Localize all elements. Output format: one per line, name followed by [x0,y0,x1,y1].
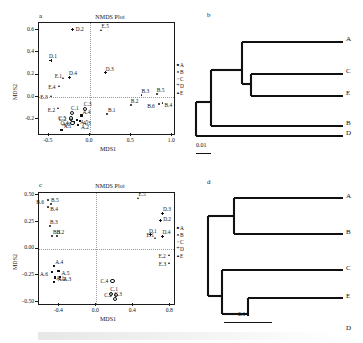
data-point-label-c-3: C.3 [114,291,122,297]
y-tickmark [35,248,38,249]
data-point-a-4 [80,114,82,116]
data-point-label-d-4: D.4 [162,229,170,235]
panel-d-leaf-c: C [346,264,351,272]
data-point-label-b-6: B.6 [36,199,44,205]
data-point-label-c-2: C.2 [104,292,112,298]
panel-a-xlabel: MDS1 [78,146,138,152]
y-tickmark [35,29,38,30]
panel-b-scale-label: 0.01 [196,142,207,148]
data-point-b-6 [47,199,49,201]
data-point-e-3 [168,262,170,264]
panel-letter-a: a [39,12,42,20]
legend-label-e: E [180,253,183,260]
data-point-e-2 [168,254,170,256]
x-tickmark [89,133,90,136]
data-point-label-b-6: B.6 [147,103,155,109]
panel-d-tree-svg [186,186,358,316]
legend-marker-filled-circle-icon: ● [176,231,180,238]
panel-letter-d: d [207,178,211,186]
y-tickmark [35,194,38,195]
y-tick-label: 0.25 [10,218,34,224]
data-point-label-d-2: D.2 [76,26,84,32]
panel-d-dendrogram[interactable] [186,186,358,316]
data-point-label-e-4: E.4 [48,84,55,90]
legend-marker-filled-square-icon: ■ [176,224,180,231]
data-point-label-e-1: E.1 [55,73,62,79]
data-point-e-1 [154,237,156,239]
panel-b-dendrogram[interactable] [186,18,358,150]
legend-item-e: ▲E [176,253,184,260]
data-point-label-e-1: E.1 [147,232,154,238]
data-point-b-1 [106,113,108,115]
data-point-label-b-1: B.1 [108,107,116,113]
data-point-label-d-2: D.2 [163,216,171,222]
data-point-label-b-4: B.4 [50,206,58,212]
data-point-label-a-5: A.5 [61,270,69,276]
panel-letter-c: c [39,181,42,189]
x-tick-label: 0.8 [155,307,183,313]
data-point-label-b-3: B.3 [50,219,58,225]
data-point-label-b-2: B.2 [131,98,139,104]
x-tickmark [95,303,96,306]
data-point-label-e-5: E.5 [102,23,109,29]
data-point-label-a-6: A.6 [40,271,48,277]
legend-marker-filled-circle-icon: ● [176,68,180,75]
data-point-a-5 [57,270,59,272]
data-point-e-3 [50,95,52,97]
data-point-label-b-5: B.5 [51,197,59,203]
data-point-label-d-4: D.4 [69,70,77,76]
panel-c-xlabel: MDS1 [78,316,138,322]
panel-d-scale-bar [224,322,272,323]
panel-a-plot-area[interactable]: A.1A.2A.3A.4A.5A.6B.1B.2B.3B.4B.5B.6C.1C… [38,22,175,135]
legend-top: ■A●B○C+D▲E [176,62,184,97]
data-point-label-d-1: D.1 [49,53,57,59]
panel-c-horizontal-gridline [39,249,174,250]
panel-c-plot-area[interactable]: A.1A.2A.3A.4A.5A.6B.1B.2B.3B.4B.5B.6C.1C… [38,192,175,305]
data-point-label-e-3: E.3 [40,94,47,100]
y-tick-label: -0.50 [10,298,34,304]
data-point-label-c-3: C.3 [84,101,92,107]
x-tick-label: 0.0 [81,307,109,313]
legend-marker-triangle-icon: ▲ [176,89,180,96]
x-tickmark [169,303,170,306]
x-tick-label: 0.5 [116,137,144,143]
data-point-label-c-4: C.4 [101,278,109,284]
figure-root: a NMDS Plot Stress=0.109 A.1A.2A.3A.4A.5… [0,0,363,343]
data-point-c-3 [113,297,117,301]
data-point-a-5 [76,119,78,121]
x-tickmark [171,133,172,136]
y-tickmark [35,221,38,222]
x-tickmark [58,303,59,306]
y-tickmark [35,51,38,52]
data-point-b-1 [51,235,53,237]
data-point-a-2 [77,124,79,126]
data-point-b-2 [130,104,132,106]
data-point-label-b-3: B.3 [141,88,149,94]
panel-b-leaf-d: D [346,129,351,137]
data-point-label-e-2: E.2 [158,253,165,259]
data-point-label-a-5: A.5 [80,119,88,125]
x-tick-label: 0.0 [75,137,103,143]
data-point-label-c-5: C.5 [58,115,66,121]
panel-a-title: NMDS Plot [55,14,165,20]
panel-d-leaf-e: E [346,292,350,300]
y-tick-label: 0.6 [10,26,34,32]
legend-marker-filled-square-icon: ■ [176,61,180,68]
legend-marker-open-circle-icon: ○ [176,238,180,245]
x-tickmark [132,303,133,306]
data-point-label-d-3: D.3 [106,66,114,72]
data-point-label-a-4: A.4 [55,259,63,265]
data-point-d-2 [71,28,74,31]
y-tickmark [35,74,38,75]
y-tickmark [35,96,38,97]
panel-b-leaf-b: B [346,119,351,127]
data-point-a-1 [60,129,62,131]
x-tick-label: -0.5 [34,137,62,143]
data-point-label-e-2: E.2 [48,107,55,113]
data-point-e-2 [57,107,59,109]
y-tick-label: -0.25 [10,271,34,277]
data-point-label-a-3: A.3 [63,276,71,282]
data-point-label-c-1: C.1 [71,105,79,111]
legend-marker-plus-icon: + [176,82,180,89]
y-tick-label: 0.50 [10,191,34,197]
